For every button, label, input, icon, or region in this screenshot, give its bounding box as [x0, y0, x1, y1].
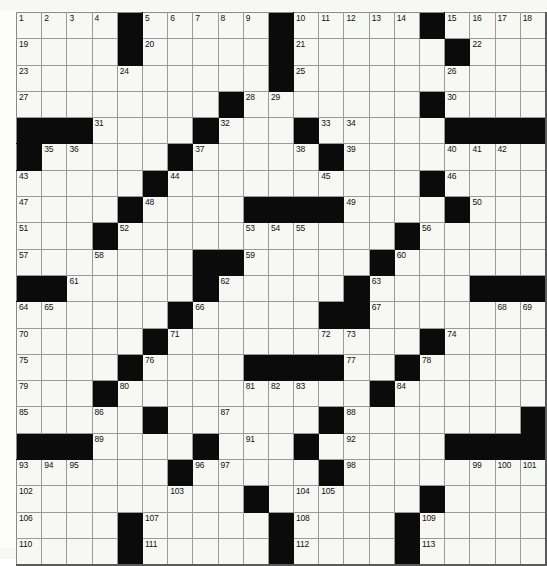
letter-cell[interactable] — [520, 512, 546, 538]
letter-cell[interactable]: 108 — [294, 512, 319, 538]
letter-cell[interactable] — [520, 170, 546, 196]
letter-cell[interactable]: 71 — [168, 328, 193, 354]
letter-cell[interactable] — [394, 39, 419, 65]
letter-cell[interactable] — [218, 354, 243, 380]
letter-cell[interactable]: 36 — [67, 144, 92, 170]
letter-cell[interactable]: 113 — [420, 538, 445, 565]
letter-cell[interactable] — [243, 65, 268, 91]
letter-cell[interactable]: 17 — [495, 13, 520, 39]
letter-cell[interactable] — [92, 354, 117, 380]
letter-cell[interactable]: 43 — [17, 170, 42, 196]
letter-cell[interactable] — [470, 91, 495, 117]
letter-cell[interactable]: 21 — [294, 39, 319, 65]
letter-cell[interactable] — [42, 39, 67, 65]
letter-cell[interactable] — [218, 538, 243, 565]
letter-cell[interactable] — [193, 197, 218, 223]
letter-cell[interactable] — [394, 65, 419, 91]
letter-cell[interactable] — [193, 381, 218, 407]
letter-cell[interactable]: 40 — [445, 144, 470, 170]
letter-cell[interactable] — [67, 91, 92, 117]
letter-cell[interactable]: 86 — [92, 407, 117, 433]
letter-cell[interactable]: 103 — [168, 486, 193, 512]
letter-cell[interactable] — [445, 302, 470, 328]
letter-cell[interactable] — [67, 39, 92, 65]
letter-cell[interactable]: 35 — [42, 144, 67, 170]
letter-cell[interactable] — [117, 407, 142, 433]
letter-cell[interactable]: 22 — [470, 39, 495, 65]
letter-cell[interactable] — [117, 460, 142, 486]
letter-cell[interactable] — [142, 302, 167, 328]
letter-cell[interactable]: 68 — [495, 302, 520, 328]
letter-cell[interactable] — [268, 407, 293, 433]
letter-cell[interactable] — [495, 65, 520, 91]
letter-cell[interactable] — [369, 144, 394, 170]
letter-cell[interactable]: 53 — [243, 223, 268, 249]
letter-cell[interactable] — [42, 65, 67, 91]
letter-cell[interactable] — [520, 223, 546, 249]
letter-cell[interactable] — [369, 91, 394, 117]
letter-cell[interactable]: 27 — [17, 91, 42, 117]
letter-cell[interactable] — [243, 118, 268, 144]
letter-cell[interactable]: 33 — [319, 118, 344, 144]
letter-cell[interactable] — [268, 118, 293, 144]
letter-cell[interactable] — [394, 170, 419, 196]
letter-cell[interactable] — [268, 249, 293, 275]
letter-cell[interactable] — [520, 486, 546, 512]
letter-cell[interactable]: 18 — [520, 13, 546, 39]
letter-cell[interactable] — [117, 118, 142, 144]
letter-cell[interactable]: 87 — [218, 407, 243, 433]
letter-cell[interactable] — [42, 249, 67, 275]
letter-cell[interactable]: 111 — [142, 538, 167, 565]
letter-cell[interactable] — [319, 433, 344, 459]
letter-cell[interactable]: 79 — [17, 381, 42, 407]
letter-cell[interactable] — [495, 407, 520, 433]
letter-cell[interactable]: 73 — [344, 328, 369, 354]
letter-cell[interactable] — [520, 249, 546, 275]
letter-cell[interactable] — [92, 460, 117, 486]
letter-cell[interactable] — [243, 407, 268, 433]
letter-cell[interactable] — [369, 354, 394, 380]
letter-cell[interactable] — [193, 65, 218, 91]
letter-cell[interactable] — [445, 486, 470, 512]
crossword-grid[interactable]: 1234567891011121314151617181920212223242… — [16, 12, 547, 566]
letter-cell[interactable] — [394, 486, 419, 512]
letter-cell[interactable] — [92, 275, 117, 301]
letter-cell[interactable] — [394, 407, 419, 433]
letter-cell[interactable]: 84 — [394, 381, 419, 407]
letter-cell[interactable]: 109 — [420, 512, 445, 538]
letter-cell[interactable] — [369, 433, 394, 459]
letter-cell[interactable]: 31 — [92, 118, 117, 144]
letter-cell[interactable] — [67, 407, 92, 433]
letter-cell[interactable]: 34 — [344, 118, 369, 144]
letter-cell[interactable] — [67, 223, 92, 249]
letter-cell[interactable] — [117, 302, 142, 328]
letter-cell[interactable]: 3 — [67, 13, 92, 39]
letter-cell[interactable] — [193, 170, 218, 196]
letter-cell[interactable]: 61 — [67, 275, 92, 301]
letter-cell[interactable]: 76 — [142, 354, 167, 380]
letter-cell[interactable] — [142, 91, 167, 117]
letter-cell[interactable] — [142, 249, 167, 275]
letter-cell[interactable]: 60 — [394, 249, 419, 275]
letter-cell[interactable] — [117, 328, 142, 354]
letter-cell[interactable]: 54 — [268, 223, 293, 249]
letter-cell[interactable]: 23 — [17, 65, 42, 91]
letter-cell[interactable] — [142, 118, 167, 144]
letter-cell[interactable] — [470, 65, 495, 91]
letter-cell[interactable]: 45 — [319, 170, 344, 196]
letter-cell[interactable] — [67, 486, 92, 512]
letter-cell[interactable]: 57 — [17, 249, 42, 275]
letter-cell[interactable]: 14 — [394, 13, 419, 39]
letter-cell[interactable]: 66 — [193, 302, 218, 328]
letter-cell[interactable] — [117, 170, 142, 196]
letter-cell[interactable] — [344, 223, 369, 249]
letter-cell[interactable]: 55 — [294, 223, 319, 249]
letter-cell[interactable] — [420, 39, 445, 65]
letter-cell[interactable] — [394, 433, 419, 459]
letter-cell[interactable] — [218, 65, 243, 91]
letter-cell[interactable] — [243, 302, 268, 328]
letter-cell[interactable] — [92, 39, 117, 65]
letter-cell[interactable] — [344, 381, 369, 407]
letter-cell[interactable]: 77 — [344, 354, 369, 380]
letter-cell[interactable] — [319, 249, 344, 275]
